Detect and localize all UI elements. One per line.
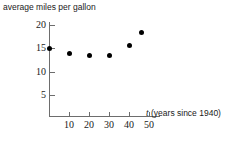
y-axis-line (49, 22, 50, 117)
x-tick-40 (129, 112, 130, 117)
y-tick-label-20: 20 (24, 20, 46, 30)
x-tick-10 (69, 112, 70, 117)
y-tick-10 (50, 72, 55, 73)
x-tick-20 (89, 112, 90, 117)
data-point (139, 30, 144, 35)
y-tick-label-15: 15 (24, 43, 46, 53)
x-tick-label-50: 50 (137, 119, 161, 130)
x-axis-variable: t (146, 108, 149, 118)
x-axis-line (49, 116, 160, 117)
plot-title: average miles per gallon (3, 2, 96, 12)
x-axis-title: t (years since 1940) (146, 108, 221, 118)
data-point (47, 46, 52, 51)
data-point (87, 53, 92, 58)
data-point (127, 43, 132, 48)
y-tick-20 (50, 25, 55, 26)
y-tick-5 (50, 95, 55, 96)
data-point (67, 51, 72, 56)
x-axis-note: (years since 1940) (151, 108, 221, 118)
y-tick-label-10: 10 (24, 67, 46, 77)
y-tick-label-5: 5 (24, 90, 46, 100)
x-tick-30 (109, 112, 110, 117)
data-point (107, 53, 112, 58)
scatter-plot-figure: average miles per gallon 20 15 10 5 10 2… (0, 0, 233, 142)
